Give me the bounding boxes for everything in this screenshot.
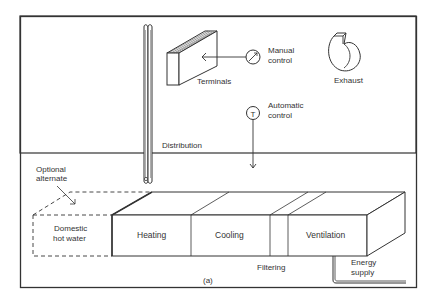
optional-alternate-label-2: alternate	[36, 174, 68, 183]
exhaust-fan-icon	[329, 33, 361, 71]
distribution-pipe	[144, 25, 152, 184]
energy-supply-label-1: Energy	[351, 258, 376, 267]
optional-alternate-label-1: Optional	[36, 165, 66, 174]
manual-control-label-2: control	[268, 56, 292, 65]
domestic-hot-water-label-2: hot water	[53, 234, 86, 243]
energy-supply-label-2: supply	[351, 268, 374, 277]
hvac-main-unit	[112, 192, 405, 256]
figure-caption: (a)	[203, 276, 213, 285]
ventilation-label: Ventilation	[306, 230, 345, 240]
automatic-control-label-2: control	[268, 111, 292, 120]
terminals-label: Terminals	[197, 77, 231, 86]
cooling-label: Cooling	[215, 230, 244, 240]
exhaust-label: Exhaust	[334, 76, 364, 85]
domestic-hot-water-label-1: Domestic	[54, 224, 87, 233]
distribution-label: Distribution	[162, 141, 202, 150]
thermostat-symbol: T	[251, 110, 256, 119]
automatic-control-label-1: Automatic	[268, 101, 304, 110]
filtering-label: Filtering	[257, 263, 285, 272]
heating-label: Heating	[137, 230, 167, 240]
manual-control-label-1: Manual	[268, 46, 294, 55]
figure: Distribution Terminals Manual control Ex…	[0, 0, 437, 303]
